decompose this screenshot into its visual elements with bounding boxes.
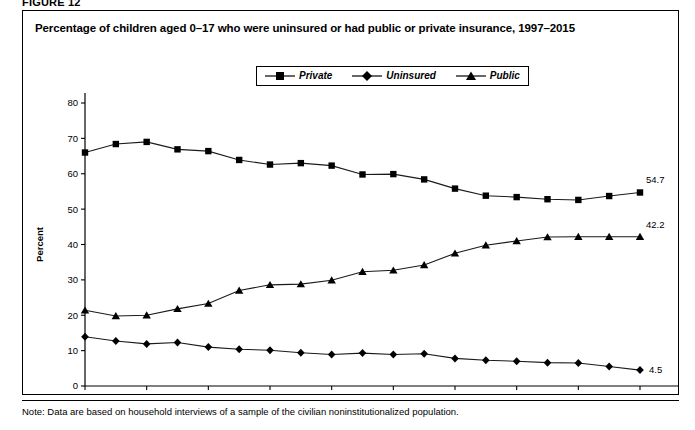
- y-tick-label: 20: [67, 310, 78, 321]
- data-point-square: [606, 193, 612, 199]
- data-point-triangle: [420, 261, 428, 268]
- data-point-diamond: [235, 345, 243, 353]
- data-point-square: [637, 189, 643, 195]
- data-point-diamond: [81, 333, 89, 341]
- y-tick-label: 70: [67, 133, 78, 144]
- end-label-private: 54.7: [646, 174, 665, 185]
- x-tick-label: 2007: [383, 392, 404, 394]
- end-label-uninsured: 4.5: [649, 364, 662, 375]
- data-point-diamond: [205, 343, 213, 351]
- x-tick-label: 2011: [506, 392, 526, 394]
- figure-label: FIGURE 12: [22, 0, 81, 8]
- data-point-diamond: [482, 356, 490, 364]
- series-line-public: [85, 237, 640, 316]
- line-chart-plot: 01020304050607080Percent1997199920012003…: [23, 11, 678, 394]
- x-tick-label: 2009: [444, 392, 465, 394]
- data-point-triangle: [204, 300, 212, 307]
- chart-panel: Percentage of children aged 0–17 who wer…: [22, 10, 679, 395]
- data-point-diamond: [513, 357, 521, 365]
- data-point-square: [174, 146, 180, 152]
- data-point-square: [143, 139, 149, 145]
- data-point-square: [483, 192, 489, 198]
- data-point-diamond: [451, 354, 459, 362]
- data-point-square: [544, 196, 550, 202]
- data-point-square: [359, 171, 365, 177]
- y-tick-label: 0: [73, 380, 78, 391]
- data-point-square: [513, 194, 519, 200]
- data-point-diamond: [636, 366, 644, 374]
- data-point-square: [82, 149, 88, 155]
- data-point-square: [421, 176, 427, 182]
- data-point-diamond: [112, 337, 120, 345]
- data-point-square: [113, 141, 119, 147]
- figure-container: FIGURE 12 Percentage of children aged 0–…: [0, 0, 695, 430]
- x-tick-label: 2013: [568, 392, 589, 394]
- x-tick-label: 2003: [259, 392, 280, 394]
- chart-note: Note: Data are based on household interv…: [22, 406, 459, 417]
- data-point-diamond: [420, 350, 428, 358]
- series-line-private: [85, 142, 640, 200]
- data-point-square: [452, 185, 458, 191]
- footer-divider: [22, 400, 679, 401]
- y-axis-title: Percent: [34, 226, 45, 262]
- data-point-diamond: [297, 349, 305, 357]
- y-tick-label: 60: [67, 168, 78, 179]
- data-point-diamond: [266, 346, 274, 354]
- y-tick-label: 10: [67, 345, 78, 356]
- data-point-square: [236, 157, 242, 163]
- data-point-diamond: [575, 359, 583, 367]
- data-point-square: [390, 171, 396, 177]
- data-point-diamond: [143, 340, 151, 348]
- x-tick-label: 2015: [629, 392, 650, 394]
- data-point-diamond: [359, 349, 367, 357]
- x-tick-label: 1999: [136, 392, 157, 394]
- x-tick-label: 1997: [74, 392, 95, 394]
- end-label-public: 42.2: [646, 219, 665, 230]
- x-tick-label: 2005: [321, 392, 342, 394]
- data-point-square: [298, 160, 304, 166]
- y-tick-label: 30: [67, 274, 78, 285]
- y-tick-label: 80: [67, 97, 78, 108]
- x-tick-label: 2001: [198, 392, 219, 394]
- data-point-triangle: [81, 306, 89, 313]
- data-point-square: [328, 162, 334, 168]
- data-point-square: [575, 197, 581, 203]
- data-point-diamond: [328, 351, 336, 359]
- data-point-square: [267, 161, 273, 167]
- y-tick-label: 50: [67, 204, 78, 215]
- data-point-diamond: [544, 359, 552, 367]
- y-tick-label: 40: [67, 239, 78, 250]
- data-point-square: [205, 148, 211, 154]
- data-point-diamond: [390, 351, 398, 359]
- data-point-diamond: [605, 363, 613, 371]
- data-point-diamond: [174, 338, 182, 346]
